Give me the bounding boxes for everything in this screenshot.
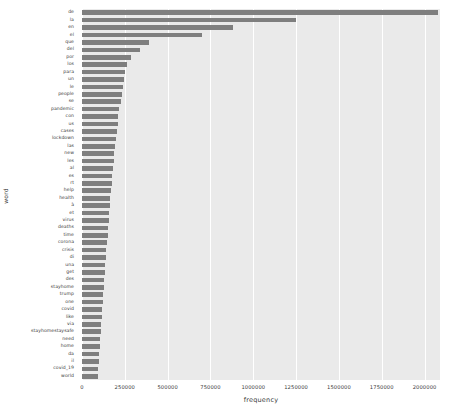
bar [82,92,122,97]
y-tick-label: et [69,211,74,216]
y-tick-label: con [66,114,74,119]
y-tick-label: al [70,166,74,171]
y-tick-label: que [65,40,74,45]
y-tick-label: se [69,99,74,104]
y-tick-label: les [67,159,74,164]
y-tick-label: one [65,300,74,305]
bar [82,248,106,253]
bar [82,48,140,53]
bar [82,40,149,45]
bar [82,85,123,90]
y-tick-label: us [69,122,74,127]
bar [82,300,103,305]
y-tick-label: pandemic [51,107,74,112]
y-tick-label: il [71,359,74,364]
y-tick-label: get [66,270,74,275]
y-tick-label: stayhomestaysafe [31,329,74,334]
y-tick-label: via [67,322,74,327]
x-tick-label: 2000000 [413,384,437,390]
bar [82,99,121,104]
x-tick-label: 250000 [115,384,135,390]
y-tick-label: en [68,25,74,30]
bar [82,107,119,112]
bar [82,233,108,238]
plot-area [82,9,440,380]
bar [82,77,124,82]
y-tick-label: es [69,174,74,179]
y-tick-label: health [59,196,74,201]
bar [82,137,116,142]
bar [82,315,102,320]
x-tick-label: 750000 [200,384,220,390]
bar [82,226,108,231]
bar [82,129,117,134]
y-tick-label: deaths [58,225,74,230]
y-tick-label: home [61,344,74,349]
bar [82,33,202,38]
y-tick-label: da [68,352,74,357]
bar [82,196,110,201]
bar [82,10,438,15]
y-tick-label: new [64,151,74,156]
y-tick-label: need [62,337,74,342]
y-tick-label: las [67,144,74,149]
x-axis-title: frequency [82,396,440,404]
bar [82,122,118,127]
x-tick-label: 1000000 [241,384,265,390]
y-tick-label: el [70,33,74,38]
y-tick-label: un [68,77,74,82]
y-tick-label: crisis [62,248,74,253]
y-tick-label: world [61,374,74,379]
bar [82,174,112,179]
bar [82,307,102,312]
bar [82,144,115,149]
y-tick-label: de [68,10,74,15]
bar [82,240,107,245]
bar [82,374,98,379]
y-tick-label: la [70,18,74,23]
bar-series [82,9,440,380]
bar [82,70,125,75]
bar [82,55,131,60]
bar [82,285,104,290]
y-tick-label: los [67,62,74,67]
bar [82,255,106,260]
y-tick-label: di [70,255,74,260]
x-tick-label: 1250000 [284,384,308,390]
bar [82,62,127,67]
y-tick-label: covid_19 [53,366,74,371]
bar [82,203,110,208]
x-tick-label: 500000 [157,384,177,390]
bar [82,263,105,268]
y-tick-label: des [66,277,74,282]
bar [82,159,114,164]
y-tick-label: del [67,47,74,52]
bar [82,218,109,223]
y-tick-label: help [64,188,74,193]
y-tick-label: like [66,315,74,320]
y-tick-label: à [71,203,74,208]
y-tick-label: cases [61,129,74,134]
x-tick-label: 1500000 [327,384,351,390]
y-axis-tick-labels: delaenelquedelporlosparaunlepeoplesepand… [0,9,78,380]
y-tick-label: time [63,233,74,238]
y-tick-label: trump [60,292,74,297]
x-tick-label: 0 [80,384,83,390]
bar [82,166,113,171]
bar [82,188,111,193]
bar [82,270,105,275]
bar [82,25,233,30]
bar [82,114,118,119]
y-tick-label: le [70,85,74,90]
bar [82,151,114,156]
y-tick-label: covid [62,307,75,312]
bar [82,352,99,357]
x-tick-label: 1750000 [370,384,394,390]
bar [82,337,100,342]
y-tick-label: por [66,55,74,60]
bar [82,329,101,334]
bar [82,181,112,186]
bar [82,211,109,216]
bar [82,367,98,372]
bar [82,344,100,349]
